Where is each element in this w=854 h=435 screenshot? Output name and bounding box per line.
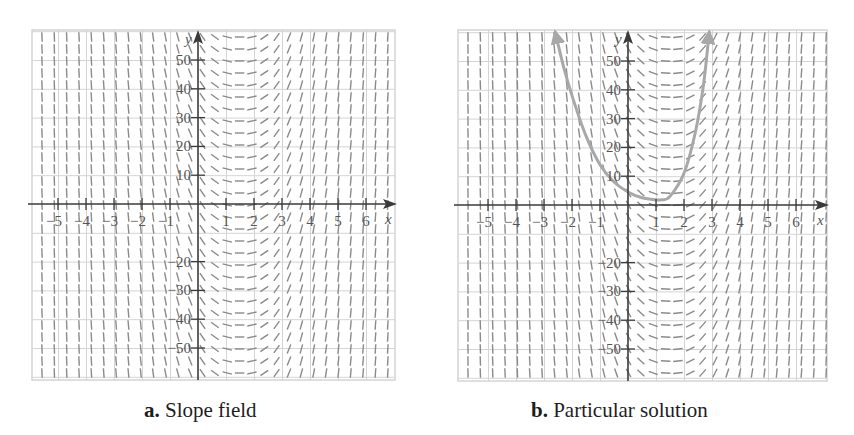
caption-slope-field: a. Slope field <box>144 398 257 423</box>
y-tick-label: −20 <box>168 254 191 270</box>
y-tick-label: 50 <box>606 53 621 69</box>
y-tick-label: 50 <box>176 52 191 68</box>
caption-particular-solution: b. Particular solution <box>531 398 708 423</box>
y-axis-label: y <box>613 31 622 47</box>
x-tick-label: 4 <box>306 213 314 229</box>
axes <box>454 30 829 381</box>
x-tick-label: 1 <box>652 214 660 230</box>
x-tick-label: −2 <box>130 213 146 229</box>
y-tick-label: −50 <box>168 340 191 356</box>
y-axis-label: y <box>183 31 192 47</box>
caption-prefix: a. <box>144 398 160 422</box>
x-tick-label: −3 <box>532 214 548 230</box>
x-tick-label: 3 <box>278 213 286 229</box>
x-tick-label: −5 <box>476 214 492 230</box>
caption-prefix: b. <box>531 398 548 422</box>
y-tick-label: −30 <box>598 283 621 299</box>
x-tick-label: −1 <box>588 214 604 230</box>
y-tick-label: −40 <box>168 311 191 327</box>
x-axis-label: x <box>816 212 824 228</box>
x-tick-label: 3 <box>708 214 716 230</box>
x-tick-label: 5 <box>764 214 772 230</box>
y-tick-label: 30 <box>176 110 191 126</box>
y-tick-label: −50 <box>598 341 621 357</box>
x-tick-label: −1 <box>158 213 174 229</box>
x-tick-label: 4 <box>736 214 744 230</box>
x-tick-label: −4 <box>74 213 90 229</box>
y-tick-label: −20 <box>598 255 621 271</box>
y-tick-label: 20 <box>606 139 621 155</box>
slope-field-panel: −5−4−3−2−11234561020304050−20−30−40−50xy <box>0 0 427 395</box>
x-axis-label: x <box>384 211 392 227</box>
y-tick-label: −40 <box>598 312 621 328</box>
y-tick-label: 40 <box>606 82 621 98</box>
x-tick-label: 2 <box>250 213 258 229</box>
x-tick-label: 1 <box>222 213 230 229</box>
caption-text: Particular solution <box>553 398 708 422</box>
y-tick-label: −30 <box>168 282 191 298</box>
x-tick-label: −2 <box>560 214 576 230</box>
y-tick-label: 30 <box>606 111 621 127</box>
x-tick-label: 5 <box>334 213 342 229</box>
particular-solution-plot: −5−4−3−2−11234561020304050−20−30−40−50xy <box>427 0 854 395</box>
tick-labels: −5−4−3−2−11234561020304050−20−30−40−50xy <box>476 31 824 357</box>
caption-text: Slope field <box>165 398 257 422</box>
x-tick-label: −3 <box>102 213 118 229</box>
particular-solution-panel: −5−4−3−2−11234561020304050−20−30−40−50xy <box>427 0 854 395</box>
x-tick-label: −5 <box>46 213 62 229</box>
x-tick-label: 2 <box>680 214 688 230</box>
slope-field-plot: −5−4−3−2−11234561020304050−20−30−40−50xy <box>0 0 427 395</box>
tick-labels: −5−4−3−2−11234561020304050−20−30−40−50xy <box>46 31 392 356</box>
x-tick-label: 6 <box>362 213 370 229</box>
x-tick-label: 6 <box>792 214 800 230</box>
x-tick-label: −4 <box>504 214 520 230</box>
y-tick-label: 40 <box>176 81 191 97</box>
y-tick-label: 20 <box>176 138 191 154</box>
y-tick-label: 10 <box>606 168 621 184</box>
slope-segments <box>42 32 388 377</box>
y-tick-label: 10 <box>176 167 191 183</box>
